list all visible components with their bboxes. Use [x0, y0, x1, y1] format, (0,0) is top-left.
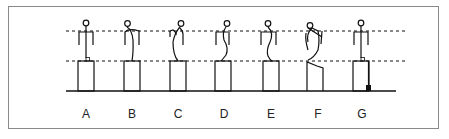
pedestal-f — [307, 62, 323, 91]
pedestal-e — [263, 61, 279, 91]
label-f: F — [314, 107, 321, 121]
pedestal-c — [170, 61, 186, 91]
label-g: G — [357, 107, 366, 121]
label-b: B — [128, 107, 136, 121]
label-a: A — [82, 107, 90, 121]
figure-c — [170, 21, 186, 91]
figure-f — [306, 23, 323, 91]
pedestal-a — [78, 61, 94, 91]
label-e: E — [267, 107, 275, 121]
head-icon — [83, 20, 89, 26]
pedestal-b — [124, 61, 140, 91]
posture-diagram: A B C D E F G — [0, 0, 449, 139]
weight-icon — [366, 85, 371, 91]
pedestal-d — [215, 61, 231, 91]
label-d: D — [220, 107, 229, 121]
label-c: C — [174, 107, 183, 121]
